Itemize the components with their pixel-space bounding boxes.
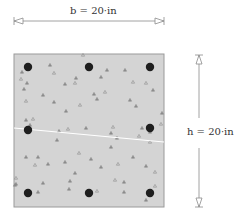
rebar [85, 63, 93, 71]
arrow-left-icon [14, 18, 23, 24]
width-dimension [14, 17, 164, 25]
column-section-diagram [0, 0, 237, 222]
width-label: b = 20·in [70, 5, 117, 16]
rebar [24, 63, 32, 71]
rebar [24, 189, 32, 197]
rebar [24, 126, 32, 134]
rebar [85, 189, 93, 197]
rebar [146, 63, 154, 71]
rebar [146, 189, 154, 197]
height-label: h = 20·in [187, 126, 234, 137]
rebar [146, 124, 154, 132]
arrow-right-icon [155, 18, 164, 24]
arrow-down-icon [196, 198, 202, 207]
arrow-up-icon [196, 55, 202, 64]
